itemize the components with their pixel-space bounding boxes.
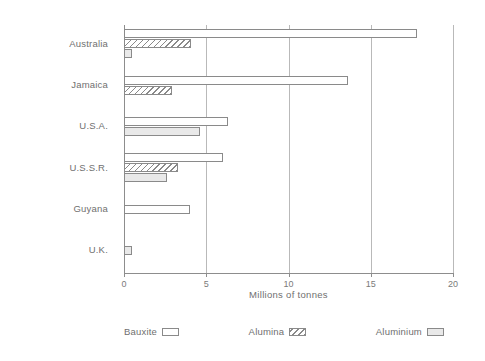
gridline-15 [371,25,372,273]
legend-item-alumina[interactable]: Alumina [249,326,307,337]
legend-item-bauxite[interactable]: Bauxite [124,326,179,337]
gridline-5 [206,25,207,273]
bar-australia-alumina [124,39,191,48]
bar-u-s-s-r-bauxite [124,153,223,162]
legend-label: Aluminium [376,326,422,337]
category-label-jamaica: Jamaica [71,79,108,90]
bar-chart: AustraliaJamaicaU.S.A.U.S.S.R.GuyanaU.K.… [0,0,485,361]
legend-label: Bauxite [124,326,157,337]
bar-guyana-bauxite [124,205,190,214]
bar-u-s-s-r-alumina [124,163,178,172]
tick-mark-15 [371,273,372,277]
tick-mark-5 [206,273,207,277]
bar-jamaica-alumina [124,86,172,95]
legend-item-aluminium[interactable]: Aluminium [376,326,444,337]
tick-mark-0 [124,273,125,277]
category-label-guyana: Guyana [74,203,108,214]
bar-u-k-aluminium [124,246,132,255]
x-axis-title: Millions of tonnes [124,289,453,300]
hatched-swatch-icon [289,328,306,336]
bar-jamaica-bauxite [124,76,348,85]
category-label-u-s-s-r: U.S.S.R. [69,162,108,173]
gray-swatch-icon [427,328,444,336]
tick-mark-10 [289,273,290,277]
gridline-10 [289,25,290,273]
legend: BauxiteAluminaAluminium [124,326,444,337]
x-tick-label: 10 [283,279,293,289]
category-axis-labels: AustraliaJamaicaU.S.A.U.S.S.R.GuyanaU.K. [0,25,108,273]
bar-australia-bauxite [124,29,417,38]
x-tick-label: 20 [448,279,458,289]
category-label-australia: Australia [69,38,108,49]
bar-australia-aluminium [124,49,132,58]
x-tick-label: 0 [121,279,126,289]
category-label-u-k: U.K. [89,244,108,255]
bar-u-s-a-aluminium [124,127,200,136]
bar-u-s-a-bauxite [124,117,228,126]
category-label-u-s-a: U.S.A. [79,120,108,131]
plot-area: 05101520 [124,25,453,273]
x-tick-label: 15 [366,279,376,289]
gridline-20 [453,25,454,273]
white-swatch-icon [162,328,179,336]
x-tick-label: 5 [204,279,209,289]
bar-u-s-s-r-aluminium [124,173,167,182]
y-axis-line [124,25,125,273]
tick-mark-20 [453,273,454,277]
legend-label: Alumina [249,326,285,337]
